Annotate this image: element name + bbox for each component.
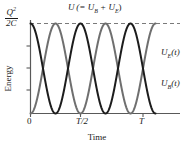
- x-tick-label-0: 0: [27, 117, 32, 126]
- y-axis-max-value-label: Q2 2C: [5, 6, 18, 28]
- x-tick-label-T: T: [139, 117, 144, 126]
- y-axis-title: Energy: [4, 51, 13, 107]
- lc-energy-figure: Q2 2C U (= UB + UE) UE(t) UB(t) 0 T/2 T …: [0, 0, 194, 148]
- curve-ue-label: UE(t): [161, 48, 180, 59]
- x-axis-title: Time: [0, 133, 194, 142]
- total-energy-label: U (= UB + UE): [68, 3, 122, 14]
- curve-ub-label: UB(t): [161, 79, 180, 90]
- x-tick-label-half-T: T/2: [76, 117, 88, 126]
